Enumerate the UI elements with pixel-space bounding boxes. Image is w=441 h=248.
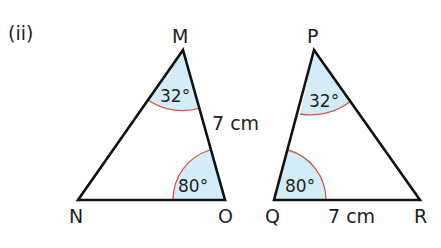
vertex-o-label: O (218, 205, 233, 227)
angle-o-label: 80° (178, 176, 208, 196)
triangle-mno: M N O 32° 80° 7 cm (69, 25, 259, 227)
vertex-r-label: R (414, 205, 427, 227)
vertex-m-label: M (172, 25, 188, 47)
side-qr-label: 7 cm (328, 205, 375, 227)
triangle-pqr: P Q R 32° 80° 7 cm (265, 25, 427, 227)
side-mo-label: 7 cm (212, 112, 259, 134)
angle-q-label: 80° (285, 176, 315, 196)
angle-m-label: 32° (160, 86, 190, 106)
vertex-q-label: Q (265, 205, 280, 227)
diagram: (ii) M N O 32° 80° 7 cm P Q R 32° 80° 7 … (0, 0, 441, 248)
vertex-p-label: P (307, 25, 318, 47)
angle-p-label: 32° (309, 91, 339, 111)
vertex-n-label: N (69, 205, 83, 227)
part-label: (ii) (8, 22, 33, 44)
